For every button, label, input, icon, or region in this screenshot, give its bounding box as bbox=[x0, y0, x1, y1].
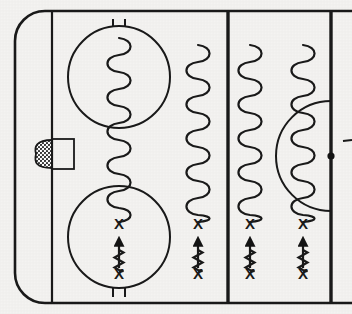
player-marker-bottom-1: X bbox=[114, 265, 124, 282]
player-marker-top-3: X bbox=[245, 215, 255, 232]
player-marker-bottom-2: X bbox=[193, 265, 203, 282]
rink-diagram-canvas: XXXXXXXX bbox=[0, 0, 352, 314]
center-faceoff-dot bbox=[327, 152, 334, 159]
boards-reference-tick bbox=[343, 140, 352, 141]
player-marker-bottom-4: X bbox=[298, 265, 308, 282]
player-marker-top-1: X bbox=[114, 215, 124, 232]
player-marker-bottom-3: X bbox=[245, 265, 255, 282]
goal-crease bbox=[35, 140, 52, 168]
player-marker-top-2: X bbox=[193, 215, 203, 232]
player-marker-top-4: X bbox=[298, 215, 308, 232]
hockey-drill-diagram: XXXXXXXX bbox=[0, 0, 352, 314]
